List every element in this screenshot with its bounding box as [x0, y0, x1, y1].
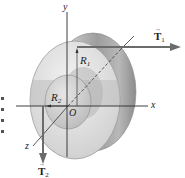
r1-subscript: 1: [87, 60, 91, 68]
r2-symbol: R: [51, 91, 58, 103]
x-axis-label: x: [151, 100, 155, 110]
z-axis-label: z: [25, 141, 29, 151]
t2-subscript: 2: [45, 171, 49, 178]
t1-label: →T1: [154, 31, 165, 44]
r1-label: R1: [80, 55, 90, 68]
vector-arrow-icon: →: [155, 26, 161, 32]
r2-label: R2: [51, 92, 61, 105]
origin-label: O: [69, 108, 76, 118]
t1-subscript: 1: [161, 36, 165, 44]
y-axis-label: y: [63, 2, 67, 12]
r2-subscript: 2: [58, 97, 62, 105]
r1-symbol: R: [80, 54, 87, 66]
margin-marks: [1, 97, 5, 141]
vector-arrow-icon: →: [39, 161, 45, 167]
t2-label: →T2: [38, 166, 49, 178]
pulley-diagram: y x z O R1 R2 →T1 →T2: [0, 0, 185, 178]
